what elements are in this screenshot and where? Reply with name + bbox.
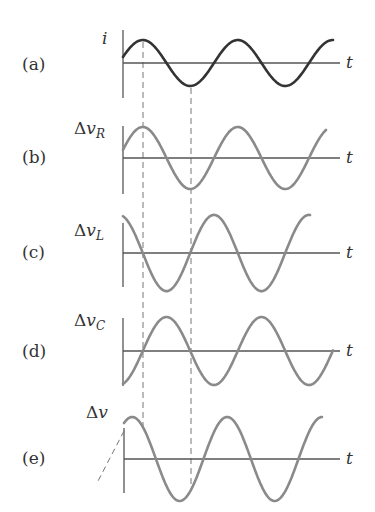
t-label-a: t — [346, 52, 353, 72]
t-label-c: t — [346, 242, 353, 262]
y-axis-label-a: i — [102, 28, 107, 48]
t-label-b: t — [346, 147, 353, 167]
panel-c: (c) ΔvL t — [22, 215, 353, 291]
y-axis-label-c: ΔvL — [74, 220, 104, 243]
panel-label-a: (a) — [22, 54, 45, 74]
y-axis-label-e: Δv — [86, 402, 108, 422]
panel-label-d: (d) — [22, 341, 46, 361]
phase-extension-dashed — [97, 431, 124, 483]
t-label-d: t — [346, 340, 353, 360]
t-label-e: t — [346, 448, 353, 468]
panel-e: (e) Δv t — [22, 402, 353, 501]
panel-b: (b) ΔvR t — [22, 118, 353, 194]
y-axis-label-d: ΔvC — [74, 310, 105, 333]
panel-label-e: (e) — [22, 448, 45, 468]
y-axis-label-b: ΔvR — [74, 118, 105, 141]
phasor-waveform-figure: (a) i t (b) ΔvR t (c) ΔvL t (d) ΔvC — [0, 0, 375, 512]
panel-d: (d) ΔvC t — [22, 310, 353, 386]
panel-label-b: (b) — [22, 147, 46, 167]
panel-a: (a) i t — [22, 28, 353, 98]
panel-label-c: (c) — [22, 242, 45, 262]
